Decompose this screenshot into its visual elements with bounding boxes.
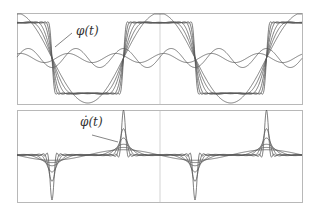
bottom-label-leader: [92, 135, 118, 142]
top-curve-label: φ(t): [76, 25, 99, 37]
top-ripple-1: [17, 49, 302, 68]
top-label-leader: [55, 33, 72, 47]
plot-canvas: [0, 0, 318, 212]
bottom-curve-label: φ̇(t): [80, 116, 103, 128]
top-series-1: [17, 14, 302, 103]
